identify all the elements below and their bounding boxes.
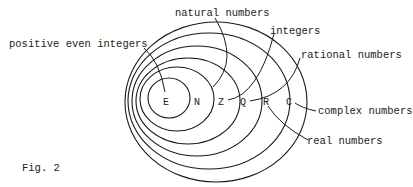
leader-natural <box>213 18 227 87</box>
leader-real <box>268 106 308 140</box>
symbol-Z: Z <box>218 97 224 108</box>
label-rational-numbers: rational numbers <box>301 49 402 61</box>
ellipse-complex <box>125 22 307 182</box>
symbol-E: E <box>163 97 169 108</box>
label-integers: integers <box>270 25 320 37</box>
leader-complex <box>295 103 316 111</box>
label-positive-even-integers: positive even integers <box>9 38 148 50</box>
label-real-numbers: real numbers <box>307 135 383 147</box>
symbol-N: N <box>194 97 200 108</box>
symbol-Q: Q <box>240 97 246 108</box>
symbol-C: C <box>286 97 292 108</box>
ellipse-natural <box>140 67 214 131</box>
label-natural-numbers: natural numbers <box>175 7 270 19</box>
figure-caption: Fig. 2 <box>22 162 60 174</box>
number-sets-diagram: E N Z Q R C positive even integers natur… <box>0 0 413 187</box>
leader-integers <box>228 34 274 100</box>
label-complex-numbers: complex numbers <box>318 105 413 117</box>
